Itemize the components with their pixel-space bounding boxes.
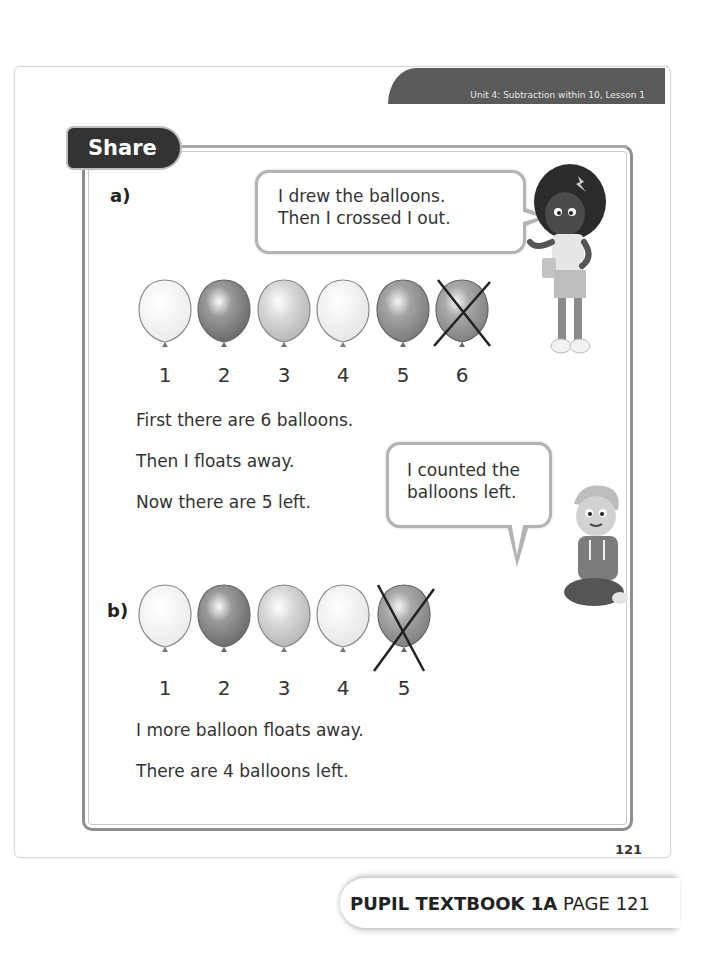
share-tab: Share xyxy=(68,128,180,168)
girl-character-illustration xyxy=(520,162,610,372)
speech-bubble-boy: I counted the balloons left. xyxy=(386,442,552,528)
footer-label: PUPIL TEXTBOOK 1A PAGE 121 xyxy=(350,893,650,914)
bubble-girl-line1: I drew the balloons. xyxy=(278,185,451,207)
balloon-number: 6 xyxy=(434,363,490,387)
crossed-balloon-icon xyxy=(372,583,436,673)
balloon-number: 4 xyxy=(315,676,371,700)
balloon-number: 3 xyxy=(256,363,312,387)
story-line: Now there are 5 left. xyxy=(136,492,311,512)
unit-banner: Unit 4: Subtraction within 10, Lesson 1 xyxy=(388,68,665,104)
story-line: First there are 6 balloons. xyxy=(136,410,353,430)
footer-page-label: PAGE 121 xyxy=(563,893,650,914)
balloon-number: 2 xyxy=(196,363,252,387)
speech-bubble-girl: I drew the balloons. Then I crossed I ou… xyxy=(255,170,526,254)
story-line: Then I floats away. xyxy=(136,451,294,471)
balloon-number: 5 xyxy=(376,676,432,700)
balloon-number: 3 xyxy=(256,676,312,700)
footer-book-label: PUPIL TEXTBOOK 1A xyxy=(350,893,557,914)
balloon-number: 5 xyxy=(375,363,431,387)
balloon-icon xyxy=(315,278,371,348)
balloon-number: 1 xyxy=(137,363,193,387)
bubble-boy-line2: balloons left. xyxy=(407,481,520,503)
share-divider xyxy=(180,145,627,148)
balloon-icon xyxy=(196,278,252,348)
balloon-number: 1 xyxy=(137,676,193,700)
balloon-number: 4 xyxy=(315,363,371,387)
page-number: 121 xyxy=(615,842,642,857)
story-line: I more balloon floats away. xyxy=(136,720,364,740)
boy-character-illustration xyxy=(560,480,630,620)
balloon-icon xyxy=(137,583,193,653)
balloon-icon xyxy=(315,583,371,653)
balloon-icon xyxy=(137,278,193,348)
balloon-icon xyxy=(256,583,312,653)
bubble-tail xyxy=(507,525,529,567)
balloon-icon xyxy=(256,278,312,348)
story-line: There are 4 balloons left. xyxy=(136,761,349,781)
crossed-balloon-icon xyxy=(432,278,492,348)
balloon-icon xyxy=(375,278,431,348)
part-b-label: b) xyxy=(107,600,128,621)
balloon-icon xyxy=(196,583,252,653)
part-a-label: a) xyxy=(110,185,130,206)
balloon-number: 2 xyxy=(196,676,252,700)
bubble-boy-line1: I counted the xyxy=(407,459,520,481)
bubble-girl-line2: Then I crossed I out. xyxy=(278,207,451,229)
unit-label: Unit 4: Subtraction within 10, Lesson 1 xyxy=(470,90,645,100)
